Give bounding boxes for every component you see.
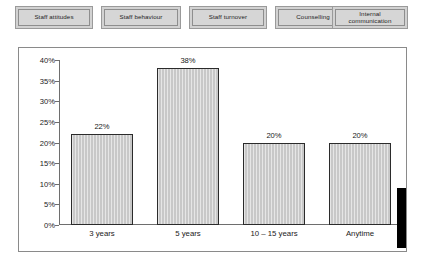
tab-strip: Staff attitudes Staff behaviour Staff tu…	[0, 0, 425, 36]
y-axis-tick	[55, 204, 59, 205]
bar	[71, 134, 133, 225]
tab-internal-communication[interactable]: Internal communication	[332, 6, 408, 29]
bar	[243, 143, 305, 226]
bar-value-label: 38%	[157, 56, 219, 65]
y-axis-tick	[55, 163, 59, 164]
y-axis-tick	[55, 184, 59, 185]
tab-staff-behaviour-face: Staff behaviour	[104, 9, 178, 26]
tab-label: Internal communication	[349, 11, 392, 24]
tab-staff-turnover[interactable]: Staff turnover	[189, 6, 267, 29]
bar-value-label: 22%	[71, 122, 133, 131]
y-axis-tick-label: 5%	[25, 200, 55, 209]
y-axis-tick-label: 40%	[25, 56, 55, 65]
x-axis-category-label: 3 years	[59, 229, 145, 238]
x-axis-category-label: Anytime	[317, 229, 403, 238]
y-axis-tick	[55, 101, 59, 102]
bar	[157, 68, 219, 225]
tab-staff-attitudes[interactable]: Staff attitudes	[15, 6, 93, 29]
tab-label: Staff turnover	[209, 14, 247, 21]
tab-staff-attitudes-face: Staff attitudes	[18, 9, 90, 26]
bar-value-label: 20%	[243, 131, 305, 140]
y-axis-tick-label: 15%	[25, 159, 55, 168]
y-axis-tick	[55, 225, 59, 226]
tab-label: Counselling	[296, 14, 329, 21]
chart-frame: 0%5%10%15%20%25%30%35%40% 22%3 years38%5…	[18, 47, 407, 252]
tab-internal-communication-face: Internal communication	[335, 9, 405, 26]
bar-chart: 0%5%10%15%20%25%30%35%40% 22%3 years38%5…	[19, 48, 408, 253]
y-axis-tick-label: 20%	[25, 138, 55, 147]
y-axis-tick-label: 0%	[25, 221, 55, 230]
x-axis-category-label: 5 years	[145, 229, 231, 238]
y-axis-tick-label: 30%	[25, 97, 55, 106]
bar-value-label: 20%	[329, 131, 391, 140]
bar	[329, 143, 391, 226]
y-axis-tick	[55, 122, 59, 123]
y-axis-tick	[55, 60, 59, 61]
y-axis-tick-label: 10%	[25, 179, 55, 188]
y-axis-tick-label: 25%	[25, 117, 55, 126]
y-axis-tick	[55, 81, 59, 82]
x-axis-category-label: 10 – 15 years	[231, 229, 317, 238]
edge-marker	[397, 188, 406, 248]
y-axis-tick	[55, 143, 59, 144]
tab-label: Staff behaviour	[119, 14, 162, 21]
y-axis-tick-label: 35%	[25, 76, 55, 85]
y-axis-line	[59, 60, 60, 225]
plot-area	[59, 60, 403, 225]
tab-staff-turnover-face: Staff turnover	[192, 9, 264, 26]
y-axis-tick-labels: 0%5%10%15%20%25%30%35%40%	[23, 48, 55, 253]
tab-staff-behaviour[interactable]: Staff behaviour	[101, 6, 181, 29]
tab-label: Staff attitudes	[34, 14, 73, 21]
